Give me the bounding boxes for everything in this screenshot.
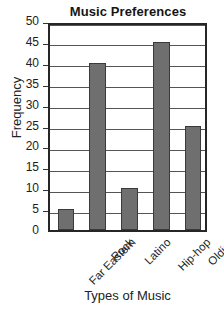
y-tick-label: 0 [32, 224, 39, 236]
x-tick-label: Latino [142, 236, 173, 267]
y-tick-label: 30 [26, 99, 39, 111]
x-axis-tick-labels: Far EasternRockLatinoHip-hopOldies [48, 232, 207, 288]
chart-title: Music Preferences [48, 4, 208, 19]
y-tick-label: 5 [32, 203, 39, 215]
x-axis-title: Types of Music [48, 288, 207, 303]
bar-series [50, 25, 205, 230]
bar [58, 209, 75, 230]
y-tick-label: 45 [26, 36, 39, 48]
chart-figure: Music Preferences Frequency 051015202530… [0, 0, 224, 314]
bar [89, 63, 106, 230]
bar [185, 126, 202, 231]
y-tick-label: 15 [26, 161, 39, 173]
y-tick-label: 20 [26, 140, 39, 152]
bar [153, 42, 170, 230]
y-tick-label: 40 [26, 57, 39, 69]
y-tick-label: 50 [26, 15, 39, 27]
x-tick-label: Hip-hop [176, 236, 213, 273]
y-tick-label: 25 [26, 120, 39, 132]
plot-area [48, 23, 207, 232]
y-axis-ticks: 05101520253035404550 [0, 23, 48, 232]
y-tick-label: 10 [26, 182, 39, 194]
y-tick-label: 35 [26, 78, 39, 90]
bar [121, 188, 138, 230]
